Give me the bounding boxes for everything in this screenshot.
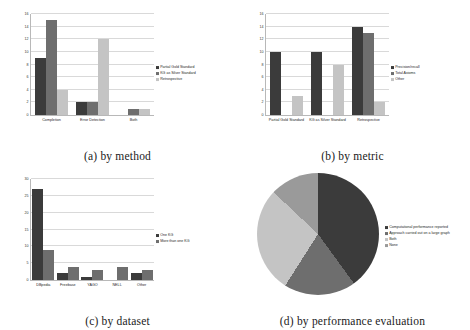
legend-item: Total Axioms [391, 71, 461, 75]
bar-group: KG as Silver Standard [307, 14, 348, 115]
legend-item: Both [385, 237, 469, 241]
bar-group: Partial Gold Standard [266, 14, 307, 115]
y-axis-tick-label: 10 [25, 244, 29, 248]
caption-d: (d) by performance evaluation [235, 315, 470, 327]
x-axis-tick-label: Freebase [60, 283, 76, 287]
y-axis-tick-label: 10 [25, 50, 29, 54]
legend-item: None [385, 243, 469, 247]
bar [92, 270, 103, 280]
legend-item: Approach carried out on a large graph [385, 231, 469, 235]
y-axis-tick-label: 12 [25, 37, 29, 41]
x-axis-tick-label: KG as Silver Standard [309, 118, 345, 122]
bar [98, 39, 109, 115]
y-axis-tick-label: 15 [25, 228, 29, 232]
y-axis-tick-label: 4 [27, 88, 29, 92]
bar [333, 65, 344, 116]
x-axis-tick-label: Retrospective [357, 118, 380, 122]
pie-slices-d [257, 173, 379, 295]
legend-swatch-icon [156, 66, 159, 69]
bar [292, 96, 303, 115]
bar-chart-b: 0246810121416Partial Gold StandardKG as … [243, 10, 461, 138]
y-axis-tick-label: 14 [260, 25, 264, 29]
legend-item: Retrospective [156, 77, 226, 81]
panel-d-by-performance-evaluation: Computational performance reportedApproa… [235, 165, 470, 330]
bar [57, 273, 68, 280]
y-axis-tick-label: 12 [260, 37, 264, 41]
legend-label: Total Axioms [395, 71, 415, 75]
caption-a: (a) by method [0, 150, 235, 162]
y-axis-tick-label: 2 [262, 100, 264, 104]
y-axis-tick-label: 30 [25, 177, 29, 181]
y-axis-tick-label: 6 [27, 75, 29, 79]
legend-label: None [389, 243, 398, 247]
legend-swatch-icon [385, 238, 388, 241]
x-axis-tick-label: YAGO [87, 283, 97, 287]
bar [117, 267, 128, 280]
legend-label: More than one KG [160, 239, 189, 243]
bar [43, 250, 54, 280]
bar-group: Freebase [56, 179, 81, 280]
legend-swatch-icon [391, 78, 394, 81]
panel-b-by-metric: 0246810121416Partial Gold StandardKG as … [235, 0, 470, 165]
bar [46, 20, 57, 115]
bar [81, 277, 92, 280]
x-axis-tick-label: NELL [112, 283, 121, 287]
legend-b: Precision/recallTotal AxiomsOther [391, 65, 461, 83]
bar-group: Both [113, 14, 154, 115]
legend-item: Computational performance reported [385, 225, 469, 229]
y-axis-tick-label: 25 [25, 194, 29, 198]
x-axis-tick-label: Partial Gold Standard [269, 118, 304, 122]
legend-swatch-icon [391, 66, 394, 69]
legend-item: Precision/recall [391, 65, 461, 69]
y-axis-tick-label: 0 [27, 278, 29, 282]
pie-chart-d: Computational performance reportedApproa… [241, 169, 469, 305]
y-axis-tick-label: 8 [27, 63, 29, 67]
bar-groups: DBpediaFreebaseYAGONELLOther [31, 179, 154, 280]
y-axis-tick-label: 14 [25, 25, 29, 29]
legend-label: Precision/recall [395, 65, 419, 69]
caption-b: (b) by metric [235, 150, 470, 162]
y-axis-tick-label: 5 [27, 261, 29, 265]
bar [131, 273, 142, 280]
plot-area-b: 0246810121416Partial Gold StandardKG as … [265, 14, 389, 116]
plot-area-c: 051015202530DBpediaFreebaseYAGONELLOther [30, 179, 154, 281]
figure-grid: 0246810121416CompletionError DetectionBo… [0, 0, 470, 330]
bar-groups: CompletionError DetectionBoth [31, 14, 154, 115]
x-axis-tick-label: Error Detection [80, 118, 105, 122]
bar [142, 270, 153, 280]
bar-group: DBpedia [31, 179, 56, 280]
legend-label: Other [395, 77, 404, 81]
bar-chart-c: 051015202530DBpediaFreebaseYAGONELLOther… [8, 175, 226, 303]
x-axis-tick-label: Other [137, 283, 146, 287]
legend-label: Computational performance reported [389, 225, 448, 229]
bar [374, 102, 385, 115]
legend-item: One KG [156, 233, 226, 237]
bar [76, 102, 87, 115]
legend-label: Partial Gold Standard [160, 65, 194, 69]
bar [352, 27, 363, 115]
legend-item: Partial Gold Standard [156, 65, 226, 69]
bar-chart-a: 0246810121416CompletionError DetectionBo… [8, 10, 226, 138]
legend-swatch-icon [385, 232, 388, 235]
bar-group: NELL [105, 179, 130, 280]
legend-a: Partial Gold StandardKG as Silver Standa… [156, 65, 226, 83]
legend-c: One KGMore than one KG [156, 233, 226, 245]
legend-item: KG as Silver Standard [156, 71, 226, 75]
plot-area-a: 0246810121416CompletionError DetectionBo… [30, 14, 154, 116]
y-axis-tick-label: 16 [25, 12, 29, 16]
legend-swatch-icon [156, 72, 159, 75]
bar-group: Error Detection [72, 14, 113, 115]
legend-label: Both [389, 237, 396, 241]
legend-swatch-icon [156, 234, 159, 237]
legend-label: Approach carried out on a large graph [389, 231, 450, 235]
bar [68, 267, 79, 280]
bar-groups: Partial Gold StandardKG as Silver Standa… [266, 14, 389, 115]
bar-group: Completion [31, 14, 72, 115]
y-axis-tick-label: 16 [260, 12, 264, 16]
y-axis-tick-label: 0 [262, 113, 264, 117]
y-axis-tick-label: 2 [27, 100, 29, 104]
bar [35, 58, 46, 115]
x-axis-tick-label: DBpedia [36, 283, 50, 287]
bar [139, 109, 150, 115]
y-axis-tick-label: 6 [262, 75, 264, 79]
